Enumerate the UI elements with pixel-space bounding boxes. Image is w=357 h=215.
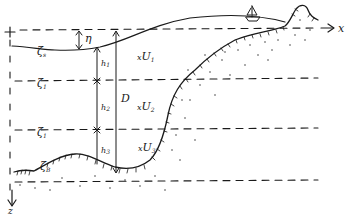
total-depth-label: D xyxy=(120,92,130,105)
free-surface-line xyxy=(12,16,285,51)
elevation-label: η xyxy=(85,32,92,45)
sediment-dots xyxy=(19,19,310,190)
interface-1-label: ζ1 xyxy=(37,77,47,90)
interface-2-line xyxy=(15,128,318,130)
u3-label: xU3 xyxy=(138,141,156,154)
surface-label: ζs xyxy=(37,45,46,58)
total-depth-arrow xyxy=(113,31,119,173)
z-axis-label: z xyxy=(7,206,13,215)
elevation-marker xyxy=(76,31,82,49)
boat-icon xyxy=(246,6,260,21)
h1-label: h1 xyxy=(101,59,110,68)
origin-marker xyxy=(5,27,15,37)
lower-reference-line xyxy=(15,180,318,182)
seabed-hatching xyxy=(17,9,314,175)
x-axis-label: x xyxy=(338,22,345,35)
h3-label: h3 xyxy=(101,146,110,155)
z-axis xyxy=(8,40,16,206)
u1-label: xU1 xyxy=(137,50,155,63)
layer-thickness-column xyxy=(94,47,100,164)
x-axis xyxy=(20,24,334,32)
seabed-profile xyxy=(14,5,318,172)
h2-label: h2 xyxy=(101,103,110,112)
u2-label: xU2 xyxy=(137,100,155,113)
interface-2-label: ζ1 xyxy=(37,126,47,139)
ocean-layer-diagram: η D ζs ζ1 ζ1 ζB h1 h2 h3 xU1 xU2 xU3 x z xyxy=(0,0,357,215)
interface-1-line xyxy=(15,78,318,81)
